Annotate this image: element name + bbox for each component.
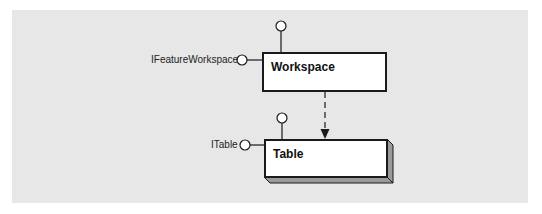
itable-label: ITable: [211, 139, 238, 151]
instantiation-arrow-icon: [321, 92, 330, 139]
table-top-interface-icon: [277, 113, 287, 139]
ifeatureworkspace-interface-icon: [237, 55, 262, 65]
ifeatureworkspace-label: IFeatureWorkspace: [151, 54, 238, 66]
workspace-class-box: Workspace: [262, 52, 387, 92]
workspace-top-interface-icon: [276, 21, 286, 52]
table-class-box: Table: [264, 139, 388, 178]
table-class-name: Table: [273, 147, 303, 161]
diagram-connectors: [0, 0, 542, 214]
itable-interface-icon: [240, 140, 264, 150]
workspace-class-name: Workspace: [271, 60, 335, 74]
